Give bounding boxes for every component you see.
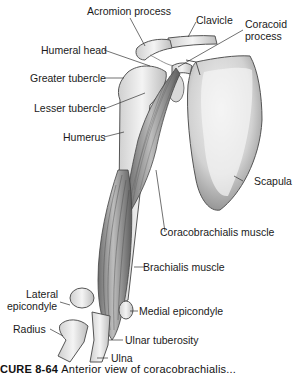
scapula-bone	[186, 56, 262, 210]
anatomy-illustration	[0, 0, 297, 374]
acromion-bone	[136, 39, 176, 66]
label-humerus: Humerus	[63, 132, 106, 143]
label-scapula: Scapula	[254, 176, 292, 187]
label-radius: Radius	[13, 324, 46, 335]
radius-bone	[58, 320, 88, 362]
caption-text: Anterior view of coracobrachialis...	[61, 363, 236, 374]
label-acromion-process: Acromion process	[87, 6, 171, 17]
label-medial-epicondyle: Medial epicondyle	[139, 306, 223, 317]
ulna-bone	[90, 312, 110, 362]
figure-caption: CURE 8-64 Anterior view of coracobrachia…	[0, 363, 236, 374]
label-brachialis-muscle: Brachialis muscle	[143, 262, 225, 273]
label-ulnar-tuberosity: Ulnar tuberosity	[125, 335, 199, 346]
label-lateral-epicondyle-line2: epicondyle	[7, 301, 57, 312]
label-humeral-head: Humeral head	[41, 45, 107, 56]
label-greater-tubercle: Greater tubercle	[30, 73, 106, 84]
label-coracoid-process-line2: process	[245, 31, 282, 42]
clavicle-bone	[168, 36, 217, 48]
label-coracoid-process-line1: Coracoid	[245, 19, 287, 30]
label-lateral-epicondyle-line1: Lateral	[26, 289, 58, 300]
label-lesser-tubercle: Lesser tubercle	[34, 103, 106, 114]
caption-label: CURE 8-64	[0, 363, 58, 374]
label-clavicle: Clavicle	[196, 15, 233, 26]
label-coracobrachialis-muscle: Coracobrachialis muscle	[160, 227, 274, 238]
